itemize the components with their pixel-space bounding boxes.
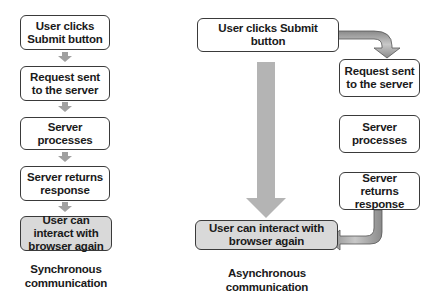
async-step-request-label: Request sent to the server	[343, 65, 416, 91]
async-step-interact-label: User can interact with browser again	[199, 222, 334, 248]
sync-step-submit: User clicks Submit button	[20, 15, 110, 50]
sync-step-response-label: Server returns response	[24, 171, 106, 197]
sync-step-interact-label: User can interact with browser again	[24, 214, 108, 253]
async-step-response-label: Server returns response	[343, 172, 416, 211]
async-step-process: Server processes	[339, 115, 420, 153]
async-main-down-arrow	[246, 62, 286, 218]
sync-step-request-label: Request sent to the server	[24, 71, 106, 97]
async-step-submit: User clicks Submit button	[197, 18, 339, 52]
sync-arrow-3	[58, 152, 72, 162]
sync-step-request: Request sent to the server	[20, 66, 110, 101]
sync-arrow-2	[58, 102, 72, 112]
async-request-curved-arrow	[338, 31, 400, 58]
sync-step-process-label: Server processes	[24, 121, 106, 147]
async-step-submit-label: User clicks Submit button	[201, 22, 335, 48]
sync-caption: Synchronous communication	[20, 262, 112, 290]
async-step-interact: User can interact with browser again	[195, 220, 338, 250]
sync-step-submit-label: User clicks Submit button	[24, 20, 106, 46]
async-step-request: Request sent to the server	[339, 59, 420, 97]
sync-step-response: Server returns response	[20, 166, 110, 201]
sync-arrow-4	[58, 202, 72, 212]
async-caption: Asynchronous communication	[222, 266, 312, 294]
sync-arrow-1	[58, 52, 72, 62]
async-step-process-label: Server processes	[343, 121, 416, 147]
async-step-response: Server returns response	[339, 172, 420, 210]
sync-step-interact: User can interact with browser again	[20, 216, 112, 251]
sync-step-process: Server processes	[20, 117, 110, 150]
